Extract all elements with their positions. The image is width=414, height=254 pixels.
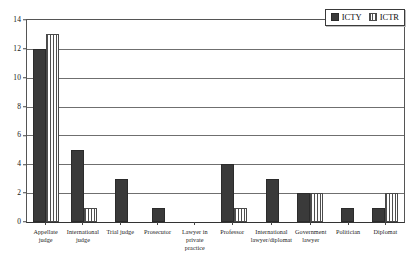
x-axis-tick-label: Trial judge [106,228,134,236]
x-axis-slot: Prosecutor [139,222,176,252]
x-axis-slot: Appellate judge [27,222,64,252]
bar-icty [152,208,165,222]
x-axis-tick-label: Politician [336,228,360,236]
x-axis-tick-mark [271,222,272,225]
legend-label-ictr: ICTR [380,13,399,22]
y-axis-tick-label: 10 [13,74,21,82]
bar-icty [33,49,46,222]
x-axis-tick-mark [232,222,233,225]
y-axis-tick: 8 [17,103,26,111]
x-axis-slot: Trial judge [102,222,139,252]
y-axis-tick: 14 [13,16,26,24]
x-axis-tick-label: Appellate judge [33,228,58,244]
bar-ictr [234,208,247,222]
bar-group [366,20,404,222]
bar-icty [115,179,128,222]
x-axis-tick-label: International lawyer/diplomat [251,228,292,244]
x-axis-slot: International judge [64,222,101,252]
bar-group [216,20,254,222]
bar-ictr [84,208,97,222]
bar-ictr [310,193,323,222]
x-axis-tick-label: Diplomat [373,228,397,236]
bar-icty [341,208,354,222]
legend-swatch-icty [331,13,339,21]
legend: ICTY ICTR [325,9,405,26]
y-axis-tick: 2 [17,189,26,197]
bar-icty [221,164,234,222]
x-axis-tick-mark [157,222,158,225]
y-axis-tick: 12 [13,45,26,53]
x-axis-tick-mark [82,222,83,225]
x-axis-slot: Government lawyer [292,222,329,252]
x-axis: Appellate judgeInternational judgeTrial … [27,222,404,252]
x-axis-tick-mark [120,222,121,225]
x-axis-tick-label: Professor [220,228,244,236]
x-axis-tick-mark [310,222,311,225]
y-axis-tick: 0 [17,218,26,226]
y-axis: 02468101214 [0,19,26,223]
bar-ictr [46,34,59,222]
legend-entry-ictr: ICTR [369,13,399,22]
y-axis-tick: 10 [13,74,26,82]
y-axis-tick-label: 14 [13,16,21,24]
x-axis-slot: Professor [213,222,250,252]
bar-ictr [385,193,398,222]
y-axis-tick-label: 2 [17,189,21,197]
bar-group [27,20,65,222]
bar-group [65,20,103,222]
bar-icty [372,208,385,222]
x-axis-slot: Lawyer in private practice [176,222,213,252]
bar-chart: 02468101214 Appellate judgeInternational… [0,0,414,254]
x-axis-slot: Politician [329,222,366,252]
y-axis-tick-label: 4 [17,161,21,169]
x-axis-tick-mark [348,222,349,225]
bar-icty [297,193,310,222]
y-axis-tick-label: 0 [17,218,21,226]
y-axis-tick-label: 6 [17,132,21,140]
bars-layer [27,20,404,222]
x-axis-tick-mark [45,222,46,225]
y-axis-tick-label: 12 [13,45,21,53]
x-axis-tick-label: Prosecutor [144,228,171,236]
x-axis-tick-mark [385,222,386,225]
legend-swatch-ictr [369,13,377,21]
x-axis-slot: International lawyer/diplomat [251,222,292,252]
x-axis-slot: Diplomat [367,222,404,252]
y-axis-tick: 4 [17,161,26,169]
x-axis-tick-mark [194,222,195,225]
y-axis-tick: 6 [17,132,26,140]
x-axis-tick-label: Lawyer in private practice [176,228,213,252]
bar-group [102,20,140,222]
legend-label-icty: ICTY [342,13,362,22]
bar-icty [71,150,84,222]
bar-group [140,20,178,222]
y-axis-tick-label: 8 [17,103,21,111]
legend-entry-icty: ICTY [331,13,362,22]
x-axis-tick-label: International judge [67,228,99,244]
bar-group [291,20,329,222]
x-axis-tick-label: Government lawyer [295,228,326,244]
bar-group [178,20,216,222]
bar-group [329,20,367,222]
bar-icty [266,179,279,222]
bar-group [253,20,291,222]
